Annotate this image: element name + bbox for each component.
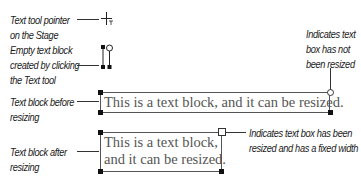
before-label-line2: resizing xyxy=(10,110,74,125)
empty-block-label-line2: created by clicking xyxy=(10,58,79,73)
resized-leader xyxy=(226,132,246,133)
after-bottom-left-handle-icon xyxy=(98,169,103,174)
before-bottom-right-handle-icon xyxy=(328,110,333,115)
after-label-line1: Text block after xyxy=(10,145,67,160)
pointer-label: Text tool pointer on the Stage xyxy=(10,13,69,43)
pointer-leader xyxy=(77,19,99,20)
text-block-after-line1: This is a text block, xyxy=(104,134,221,151)
before-label-line1: Text block before xyxy=(10,95,74,110)
after-label: Text block after resizing xyxy=(10,145,67,175)
empty-block-label: Empty text block created by clicking the… xyxy=(10,43,79,88)
circle-handle-icon[interactable] xyxy=(327,89,334,96)
square-handle-icon[interactable] xyxy=(218,128,226,136)
not-resized-label: Indicates text box has not been resized xyxy=(306,27,356,72)
not-resized-leader xyxy=(330,68,331,91)
empty-text-block-icon xyxy=(100,43,114,71)
not-resized-label-line1: Indicates text xyxy=(306,27,356,42)
after-leader xyxy=(77,151,99,152)
after-label-line2: resizing xyxy=(10,160,67,175)
text-block-after[interactable]: This is a text block, and it can be resi… xyxy=(100,132,222,172)
before-leader xyxy=(77,101,99,102)
not-resized-label-line2: box has not xyxy=(306,42,356,57)
empty-block-label-line3: the Text tool xyxy=(10,73,79,88)
text-block-after-line2: and it can be resized. xyxy=(104,151,221,168)
text-block-before[interactable]: This is a text block, and it can be resi… xyxy=(100,92,330,113)
after-bottom-right-handle-icon xyxy=(219,169,224,174)
before-top-left-handle-icon xyxy=(98,90,103,95)
resized-label: Indicates text box has been resized and … xyxy=(249,126,358,156)
after-top-left-handle-icon xyxy=(98,130,103,135)
text-block-before-content: This is a text block, and it can be resi… xyxy=(104,94,344,110)
pointer-label-line1: Text tool pointer xyxy=(10,13,69,28)
text-tool-pointer-icon xyxy=(101,12,115,26)
resized-label-line2: resized and has a fixed width xyxy=(249,141,358,156)
resized-label-line1: Indicates text box has been xyxy=(249,126,358,141)
before-label: Text block before resizing xyxy=(10,95,74,125)
pointer-label-line2: on the Stage xyxy=(10,28,69,43)
empty-block-label-line1: Empty text block xyxy=(10,43,79,58)
empty-block-leader xyxy=(77,65,99,66)
before-bottom-left-handle-icon xyxy=(98,110,103,115)
